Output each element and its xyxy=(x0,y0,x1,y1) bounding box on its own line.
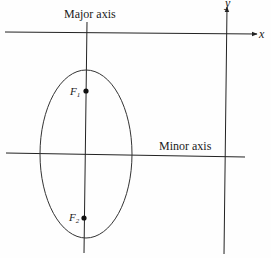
y-axis-label: y xyxy=(224,0,231,10)
focus-2-label: F2 xyxy=(68,211,80,225)
major-axis-label: Major axis xyxy=(64,7,116,21)
focus-2-point xyxy=(81,215,86,220)
focus-1-label: F1 xyxy=(69,85,80,99)
diagram-canvas: x y Major axis Minor axis F1 F2 xyxy=(0,0,271,258)
focus-1-point xyxy=(83,88,88,93)
y-axis-line xyxy=(224,7,227,254)
minor-axis-line xyxy=(6,153,245,157)
x-axis-line xyxy=(5,32,257,34)
ellipse-diagram: x y Major axis Minor axis F1 F2 xyxy=(0,0,271,258)
x-axis-label: x xyxy=(258,27,265,41)
minor-axis-label: Minor axis xyxy=(159,139,212,153)
